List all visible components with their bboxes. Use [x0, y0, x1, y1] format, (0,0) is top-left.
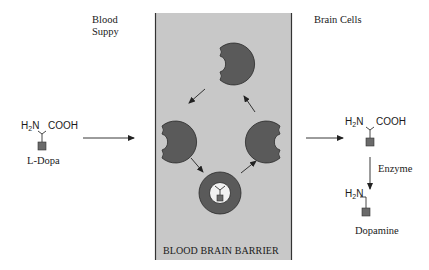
dopamine-structure: [360, 197, 370, 216]
blood-brain-barrier-diagram: Blood Suppy Brain Cells BLOOD BRAIN BARR…: [0, 0, 429, 270]
blood-supply-label: Blood Suppy: [92, 14, 119, 37]
l-dopa-structure: [38, 131, 46, 150]
l-dopa-brain-carboxyl-group: COOH: [376, 116, 406, 127]
l-dopa-brain-structure: [366, 127, 374, 146]
l-dopa-brain-amine-group: H2N: [345, 116, 363, 127]
l-dopa-label: L-Dopa: [27, 155, 60, 167]
carrier-protein-bound: [199, 172, 241, 214]
l-dopa-carboxyl-group: COOH: [48, 120, 78, 131]
dopamine-amine-group: H2N: [345, 188, 363, 199]
dopamine-label: Dopamine: [355, 225, 399, 237]
enzyme-label: Enzyme: [378, 163, 412, 175]
brain-cells-label: Brain Cells: [314, 14, 362, 26]
barrier-label: BLOOD BRAIN BARRIER: [163, 245, 279, 256]
l-dopa-amine-group: H2N: [21, 120, 39, 131]
